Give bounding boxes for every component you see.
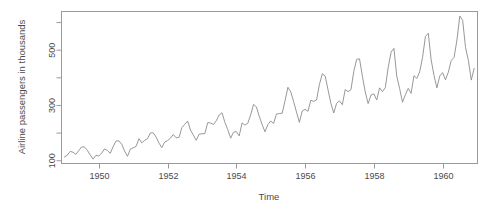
y-tick-label: 300 [47,98,57,113]
y-tick-label: 500 [47,43,57,58]
y-axis-title: Airline passengers in thousands [16,19,27,154]
y-tick-label: 100 [47,153,57,168]
chart-background [0,0,496,210]
chart-canvas: 100300500195019521954195619581960TimeAir… [0,0,496,210]
x-tick-label: 1950 [89,171,109,181]
x-tick-label: 1954 [226,171,246,181]
x-tick-label: 1956 [295,171,315,181]
x-axis-title: Time [259,191,280,202]
x-tick-label: 1960 [433,171,453,181]
x-tick-label: 1952 [158,171,178,181]
air-passengers-chart: 100300500195019521954195619581960TimeAir… [0,0,496,210]
x-tick-label: 1958 [364,171,384,181]
